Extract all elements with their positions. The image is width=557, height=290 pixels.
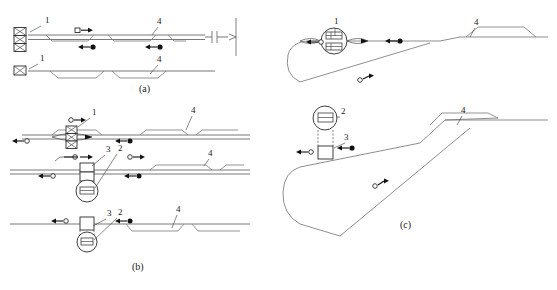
- callout-b-2a: 2: [118, 143, 123, 153]
- technical-diagram: 1 4 1 4 (a): [0, 0, 557, 290]
- marker-open-a1: [75, 28, 93, 33]
- panel-b: 1 4 3 2 4: [10, 105, 250, 273]
- callout-b-3a: 3: [106, 144, 111, 154]
- device-stacked-crossbox-b1: [66, 126, 77, 149]
- marker-open-b3: [55, 155, 93, 161]
- marker-open-b2: [12, 139, 29, 144]
- callout-c-4b: 4: [461, 105, 466, 115]
- panel-b-track-2: [10, 165, 250, 174]
- marker-open-c3: [296, 150, 313, 155]
- marker-solid-c2: [337, 145, 355, 150]
- callout-b-1: 1: [92, 107, 97, 117]
- callout-c-2: 2: [341, 106, 346, 116]
- device-stacked-crossbox-a1: [14, 28, 26, 52]
- panel-caption-b: (b): [132, 261, 144, 273]
- device-circle-b2: [76, 180, 98, 202]
- terminal-bar-a: [229, 18, 236, 56]
- panel-b-track-3: [10, 224, 250, 231]
- callout-c-4a: 4: [474, 17, 479, 27]
- device-crossbox-a2: [14, 66, 26, 75]
- panel-caption-c: (c): [400, 219, 411, 231]
- marker-open-c4: [373, 179, 389, 189]
- device-circle-b3: [77, 232, 97, 252]
- marker-solid-b3: [115, 219, 133, 224]
- marker-open-b1: [69, 118, 86, 123]
- panel-b-track-1: [22, 130, 250, 141]
- panel-a-lower-track: [28, 71, 215, 78]
- callout-b-3b: 3: [107, 208, 112, 218]
- callout-c-1: 1: [334, 16, 339, 26]
- capacitor-symbol-a: [212, 31, 228, 43]
- callout-b-2b: 2: [118, 207, 123, 217]
- device-rect-c3: [318, 130, 333, 159]
- marker-open-b6: [51, 219, 68, 224]
- device-circle-c2: [313, 106, 337, 130]
- panel-c-lower-loop: [283, 113, 548, 236]
- callout-b-4b: 4: [208, 148, 213, 158]
- panel-caption-a: (a): [139, 83, 150, 95]
- callout-c-3: 3: [344, 132, 349, 142]
- panel-a-upper-track: [28, 35, 212, 41]
- panel-a: 1 4 1 4 (a): [14, 15, 236, 95]
- panel-c: 1 4: [283, 16, 548, 236]
- marker-solid-a1: [78, 44, 96, 49]
- callout-a-4a: 4: [157, 16, 162, 26]
- callout-a-4b: 4: [157, 54, 162, 64]
- marker-open-b5: [128, 155, 145, 160]
- callout-b-4c: 4: [176, 204, 181, 214]
- callout-a-1a: 1: [45, 15, 50, 25]
- marker-solid-a2: [145, 44, 163, 49]
- callout-b-4a: 4: [191, 105, 196, 115]
- marker-solid-c1: [385, 38, 403, 43]
- marker-open-c2: [358, 74, 374, 83]
- callout-a-1b: 1: [40, 53, 45, 63]
